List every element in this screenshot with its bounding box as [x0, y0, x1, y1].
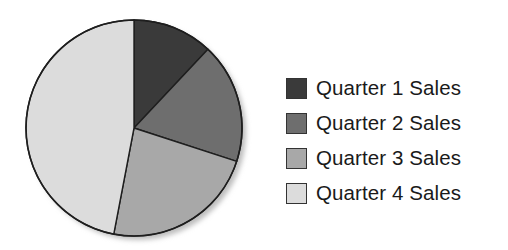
pie-chart	[0, 0, 270, 250]
legend-label-q3: Quarter 3 Sales	[316, 148, 461, 169]
legend-swatch-q2	[286, 113, 307, 134]
legend-item-q2: Quarter 2 Sales	[286, 106, 461, 141]
pie-slice-q4	[26, 20, 134, 234]
legend-label-q4: Quarter 4 Sales	[316, 183, 461, 204]
legend-swatch-q4	[286, 183, 307, 204]
legend-item-q4: Quarter 4 Sales	[286, 176, 461, 211]
legend-item-q1: Quarter 1 Sales	[286, 71, 461, 106]
legend-swatch-q3	[286, 148, 307, 169]
pie-slices	[26, 20, 242, 236]
legend-swatch-q1	[286, 78, 307, 99]
legend-label-q1: Quarter 1 Sales	[316, 78, 461, 99]
legend-item-q3: Quarter 3 Sales	[286, 141, 461, 176]
legend-label-q2: Quarter 2 Sales	[316, 113, 461, 134]
legend: Quarter 1 Sales Quarter 2 Sales Quarter …	[286, 71, 461, 211]
